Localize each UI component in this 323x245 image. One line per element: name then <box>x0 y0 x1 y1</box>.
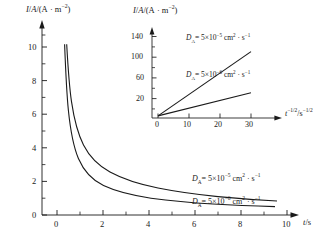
inset-x-tick-10: 10 <box>183 121 191 129</box>
inset-x-tick-30: 30 <box>245 121 253 129</box>
inset-x-tick-20: 20 <box>214 121 222 129</box>
inset-line-d5e-6 <box>158 93 251 116</box>
inset-y-tick-140: 140 <box>131 33 143 41</box>
inset-annotation-d5e-5: DA= 5×10−5 cm2 · s−1 <box>186 34 250 42</box>
inset-x-axis-title: t−1/2/s−1/2 <box>285 110 313 118</box>
inset-line-d5e-5 <box>158 52 251 116</box>
inset-x-major-ticks <box>158 114 251 119</box>
inset-chart-canvas <box>0 0 323 245</box>
inset-y-tick-60: 60 <box>136 74 144 82</box>
inset-y-axis <box>150 27 155 118</box>
chart-figure: I/A/(A · m−2) t/s 10 8 6 4 2 0 0 2 4 6 8… <box>0 0 323 245</box>
inset-y-tick-20: 20 <box>136 95 144 103</box>
inset-y-tick-100: 100 <box>131 53 143 61</box>
inset-x-tick-0: 0 <box>155 121 159 129</box>
inset-annotation-d5e-6: DA= 5×10−6 cm2 · s−1 <box>186 71 250 79</box>
inset-y-axis-title: I/A/(A · m−2) <box>133 6 177 15</box>
